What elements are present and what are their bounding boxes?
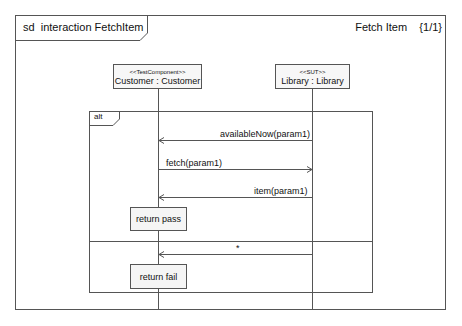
message-label-any[interactable]: * [236,243,240,253]
lifeline-stereotype: <<SUT>> [276,68,349,76]
alt-operator-label: alt [94,112,102,121]
message-label-item[interactable]: item(param1) [254,186,308,196]
message-label-fetch[interactable]: fetch(param1) [166,158,222,168]
lifeline-library[interactable]: <<SUT>> Library : Library [275,64,350,89]
diagram-name: Fetch Item {1/1} [355,21,442,33]
frame-title: sd interaction FetchItem [23,21,143,33]
lifeline-stereotype: <<TestComponent>> [114,68,201,76]
frame-title-text: interaction FetchItem [41,21,144,33]
sd-frame [15,15,446,310]
action-return-pass[interactable]: return pass [130,207,187,231]
message-label-availableNow[interactable]: availableNow(param1) [220,129,310,139]
lifeline-name: Customer : Customer [114,76,201,87]
diagram-name-text: Fetch Item [355,21,407,33]
lifeline-name: Library : Library [276,76,349,87]
page-indicator: {1/1} [419,21,442,33]
frame-kind: sd [23,21,35,33]
action-return-fail[interactable]: return fail [130,264,187,289]
lifeline-customer[interactable]: <<TestComponent>> Customer : Customer [113,64,202,89]
